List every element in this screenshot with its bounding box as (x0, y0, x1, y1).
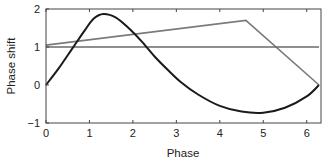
x-axis-label: Phase (167, 147, 200, 159)
x-tick-label: 3 (173, 127, 179, 139)
x-tick-label: 5 (260, 127, 266, 139)
x-tick-label: 2 (130, 127, 136, 139)
y-tick-label: −1 (27, 117, 40, 129)
y-tick-label: 1 (34, 41, 40, 53)
y-tick-label: 2 (34, 3, 40, 15)
x-tick-label: 6 (304, 127, 310, 139)
x-tick-label: 4 (217, 127, 223, 139)
plot-area (46, 14, 319, 113)
x-tick-label: 1 (86, 127, 92, 139)
y-tick-label: 0 (34, 79, 40, 91)
x-tick-label: 0 (43, 127, 49, 139)
sloped-line-series (46, 20, 319, 85)
axes: 0123456−1012 (27, 3, 321, 139)
chart: 0123456−1012 Phase Phase shift (0, 0, 336, 161)
y-axis-label: Phase shift (5, 37, 17, 95)
